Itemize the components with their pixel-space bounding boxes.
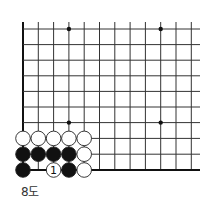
white-stone [31, 131, 46, 146]
diagram-caption: 8도 [21, 182, 39, 199]
go-board: 1 [0, 0, 210, 204]
black-stone [62, 163, 77, 178]
white-stone [77, 131, 92, 146]
white-stone [16, 131, 31, 146]
star-point-icon [67, 27, 71, 31]
white-stone: 1 [46, 163, 61, 178]
white-stone [46, 131, 61, 146]
white-stone [77, 163, 92, 178]
star-point-icon [159, 27, 163, 31]
move-number-label: 1 [50, 164, 57, 177]
black-stone [16, 147, 31, 162]
black-stone [16, 163, 31, 178]
white-stone [62, 131, 77, 146]
star-point-icon [159, 120, 163, 124]
star-point-icon [67, 120, 71, 124]
black-stone [31, 147, 46, 162]
stones: 1 [16, 131, 92, 177]
white-stone [77, 147, 92, 162]
black-stone [62, 147, 77, 162]
black-stone [46, 147, 61, 162]
